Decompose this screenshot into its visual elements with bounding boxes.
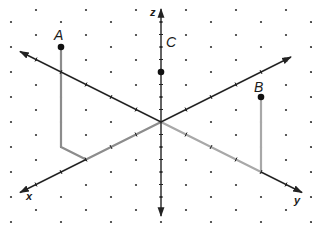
grid-dot bbox=[85, 9, 87, 11]
grid-dot bbox=[285, 9, 287, 11]
grid-dot bbox=[35, 159, 37, 161]
grid-dot bbox=[85, 209, 87, 211]
grid-dot bbox=[235, 9, 237, 11]
point-A-marker bbox=[58, 44, 65, 51]
grid-dot bbox=[85, 184, 87, 186]
grid-dot bbox=[310, 196, 312, 198]
grid-dot bbox=[185, 34, 187, 36]
grid-dot bbox=[10, 71, 12, 73]
grid-dot bbox=[85, 34, 87, 36]
grid-dot bbox=[110, 46, 112, 48]
x-axis-label: x bbox=[26, 191, 32, 202]
grid-dot bbox=[260, 221, 262, 223]
grid-dot bbox=[210, 196, 212, 198]
grid-dot bbox=[285, 34, 287, 36]
grid-dot bbox=[35, 134, 37, 136]
path-to-A bbox=[61, 47, 161, 160]
grid-dot bbox=[35, 109, 37, 111]
grid-dot bbox=[135, 59, 137, 61]
grid-dot bbox=[310, 146, 312, 148]
grid-dot bbox=[235, 34, 237, 36]
grid-dot bbox=[285, 159, 287, 161]
grid-dot bbox=[135, 34, 137, 36]
grid-dot bbox=[160, 221, 162, 223]
grid-dot bbox=[110, 171, 112, 173]
grid-dot bbox=[85, 134, 87, 136]
grid-dot bbox=[10, 171, 12, 173]
grid-dot bbox=[285, 109, 287, 111]
grid-dot bbox=[10, 221, 12, 223]
grid-dot bbox=[310, 96, 312, 98]
grid-dot bbox=[10, 46, 12, 48]
grid-dot bbox=[110, 221, 112, 223]
grid-dot bbox=[35, 34, 37, 36]
grid-dot bbox=[235, 59, 237, 61]
grid-dot bbox=[310, 46, 312, 48]
grid-dot bbox=[110, 196, 112, 198]
grid-dot bbox=[235, 184, 237, 186]
grid-dot bbox=[210, 46, 212, 48]
grid-dot bbox=[110, 21, 112, 23]
point-A-label: A bbox=[54, 28, 63, 42]
grid-dot bbox=[60, 196, 62, 198]
grid-dot bbox=[135, 184, 137, 186]
grid-dot bbox=[110, 71, 112, 73]
coordinate-diagram bbox=[0, 0, 312, 243]
grid-dot bbox=[185, 84, 187, 86]
grid-dot bbox=[135, 209, 137, 211]
grid-dot bbox=[210, 221, 212, 223]
grid-dot bbox=[10, 96, 12, 98]
grid-dot bbox=[235, 109, 237, 111]
grid-dot bbox=[185, 9, 187, 11]
grid-dot bbox=[85, 59, 87, 61]
grid-dot bbox=[210, 71, 212, 73]
grid-dot bbox=[235, 134, 237, 136]
grid-dot bbox=[310, 121, 312, 123]
grid-dot bbox=[185, 184, 187, 186]
grid-dot bbox=[260, 196, 262, 198]
grid-dot bbox=[185, 59, 187, 61]
y-axis-label: y bbox=[294, 195, 300, 206]
grid-dot bbox=[260, 46, 262, 48]
grid-dot bbox=[135, 9, 137, 11]
grid-dot bbox=[85, 109, 87, 111]
grid-dot bbox=[35, 209, 37, 211]
grid-dot bbox=[135, 159, 137, 161]
grid-dot bbox=[35, 9, 37, 11]
grid-dot bbox=[210, 21, 212, 23]
grid-dot bbox=[310, 21, 312, 23]
grid-dot bbox=[310, 171, 312, 173]
x-axis bbox=[20, 52, 161, 193]
grid-dot bbox=[285, 134, 287, 136]
grid-dot bbox=[260, 21, 262, 23]
grid-dot bbox=[310, 71, 312, 73]
grid-dot bbox=[110, 121, 112, 123]
grid-dot bbox=[235, 209, 237, 211]
grid-dot bbox=[310, 221, 312, 223]
point-B-label: B bbox=[254, 80, 263, 94]
grid-dot bbox=[210, 171, 212, 173]
z-axis-label: z bbox=[150, 7, 156, 18]
point-C-marker bbox=[158, 69, 165, 76]
grid-dot bbox=[10, 21, 12, 23]
grid-dot bbox=[285, 84, 287, 86]
path-to-B bbox=[161, 97, 261, 172]
grid-dot bbox=[285, 209, 287, 211]
point-C-label: C bbox=[166, 35, 176, 49]
grid-dot bbox=[185, 209, 187, 211]
grid-dot bbox=[60, 21, 62, 23]
grid-dot bbox=[185, 159, 187, 161]
grid-dot bbox=[10, 196, 12, 198]
grid-dot bbox=[10, 146, 12, 148]
grid-dot bbox=[135, 84, 137, 86]
grid-dot bbox=[60, 221, 62, 223]
y-axis bbox=[161, 57, 302, 193]
grid-dot bbox=[35, 84, 37, 86]
grid-dot bbox=[10, 121, 12, 123]
grid-dot bbox=[210, 121, 212, 123]
